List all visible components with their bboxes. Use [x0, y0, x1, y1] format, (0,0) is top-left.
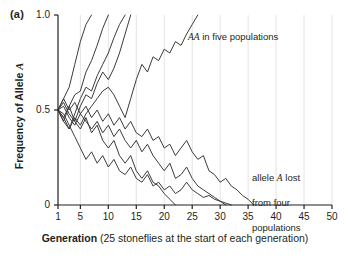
y-tick-label: 0.5 — [24, 104, 50, 115]
annotation-fixation-italic: AA — [188, 32, 200, 42]
x-tick-label: 30 — [208, 211, 232, 222]
data-line-population-4-fixed — [58, 15, 131, 121]
figure-panel-a: (a) Frequency of Allele A Generation (25… — [0, 0, 350, 259]
annotation-loss-line1-post: lost — [283, 172, 300, 183]
annotation-loss: allele A lost from four populations — [252, 160, 301, 234]
x-tick-label: 15 — [124, 211, 148, 222]
annotation-loss-line2: from four — [252, 197, 290, 208]
annotation-fixation: AA in five populations — [188, 19, 278, 44]
annotation-fixation-text: in five populations — [200, 31, 279, 42]
x-tick-label: 20 — [152, 211, 176, 222]
x-tick-label: 25 — [180, 211, 204, 222]
data-line-population-7-lost — [58, 106, 226, 205]
y-tick-label: 1.0 — [24, 9, 50, 20]
y-tick-label: 0 — [24, 199, 50, 210]
x-tick-label: 50 — [320, 211, 344, 222]
x-tick-label: 10 — [96, 211, 120, 222]
data-line-population-9-lost — [58, 99, 254, 205]
x-tick-label: 1 — [46, 211, 70, 222]
x-tick-label: 5 — [68, 211, 92, 222]
annotation-loss-line3: populations — [252, 222, 301, 233]
annotation-loss-line1-pre: allele — [252, 172, 277, 183]
